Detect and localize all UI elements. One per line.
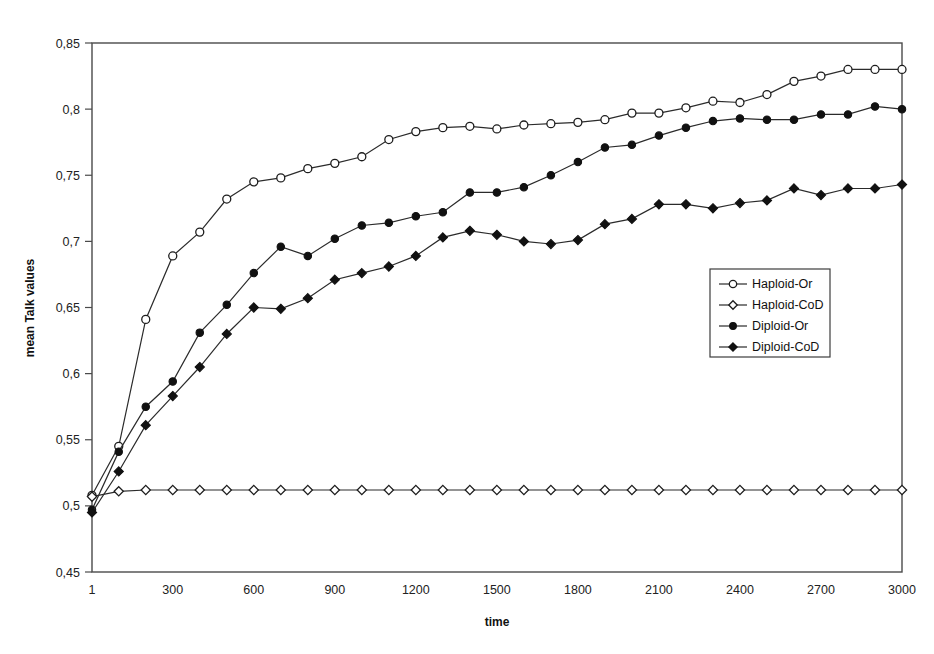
- data-point-marker: [520, 121, 528, 129]
- data-point-marker: [871, 65, 879, 73]
- data-point-marker: [439, 124, 447, 132]
- data-point-marker: [142, 315, 150, 323]
- data-point-marker: [682, 104, 690, 112]
- data-point-marker: [574, 118, 582, 126]
- data-point-marker: [790, 116, 797, 123]
- data-point-marker: [844, 111, 851, 118]
- data-point-marker: [466, 122, 474, 130]
- legend-label: Diploid-Or: [752, 319, 808, 333]
- x-tick-label: 3000: [888, 583, 916, 597]
- data-point-marker: [655, 109, 663, 117]
- chart-legend[interactable]: Haploid-OrHaploid-CoDDiploid-OrDiploid-C…: [710, 269, 830, 357]
- data-point-marker: [628, 109, 636, 117]
- data-point-marker: [493, 125, 501, 133]
- data-point-marker: [142, 403, 149, 410]
- y-tick-label: 0,7: [63, 235, 80, 249]
- data-point-marker: [601, 116, 609, 124]
- data-point-marker: [304, 252, 311, 259]
- data-point-marker: [331, 235, 338, 242]
- data-point-marker: [898, 105, 905, 112]
- data-point-marker: [358, 153, 366, 161]
- y-tick-label: 0,45: [56, 566, 80, 580]
- data-point-marker: [196, 228, 204, 236]
- data-point-marker: [277, 243, 284, 250]
- y-tick-label: 0,5: [63, 499, 80, 513]
- x-tick-label: 900: [324, 583, 345, 597]
- data-point-marker: [466, 189, 473, 196]
- data-point-marker: [601, 144, 608, 151]
- data-point-marker: [277, 174, 285, 182]
- data-point-marker: [412, 213, 419, 220]
- data-point-marker: [682, 124, 689, 131]
- chart-figure: 0,450,50,550,60,650,70,750,80,85 1300600…: [0, 0, 934, 654]
- data-point-marker: [331, 159, 339, 167]
- data-point-marker: [730, 323, 737, 330]
- data-point-marker: [250, 178, 258, 186]
- y-axis-title: mean Talk values: [23, 258, 37, 357]
- data-point-marker: [304, 165, 312, 173]
- data-point-marker: [547, 172, 554, 179]
- x-tick-label: 2700: [807, 583, 835, 597]
- data-point-marker: [736, 99, 744, 107]
- data-point-marker: [439, 209, 446, 216]
- data-point-marker: [196, 329, 203, 336]
- legend-label: Haploid-CoD: [752, 298, 824, 312]
- data-point-marker: [628, 141, 635, 148]
- x-axis-title: time: [485, 615, 510, 629]
- chart-canvas: 0,450,50,550,60,650,70,750,80,85 1300600…: [0, 0, 934, 654]
- data-point-marker: [655, 132, 662, 139]
- y-tick-label: 0,65: [56, 301, 80, 315]
- data-point-marker: [817, 72, 825, 80]
- x-tick-label: 2100: [645, 583, 673, 597]
- x-tick-label: 1500: [483, 583, 511, 597]
- x-tick-label: 1200: [402, 583, 430, 597]
- data-point-marker: [385, 136, 393, 144]
- data-point-marker: [493, 189, 500, 196]
- data-point-marker: [709, 97, 717, 105]
- data-point-marker: [223, 301, 230, 308]
- y-tick-label: 0,85: [56, 37, 80, 51]
- data-point-marker: [574, 158, 581, 165]
- x-tick-label: 600: [243, 583, 264, 597]
- data-point-marker: [790, 77, 798, 85]
- data-point-marker: [115, 448, 122, 455]
- x-tick-label: 2400: [726, 583, 754, 597]
- x-tick-label: 1: [89, 583, 96, 597]
- data-point-marker: [844, 65, 852, 73]
- data-point-marker: [250, 269, 257, 276]
- y-tick-label: 0,8: [63, 103, 80, 117]
- data-point-marker: [709, 117, 716, 124]
- data-point-marker: [520, 183, 527, 190]
- data-point-marker: [169, 252, 177, 260]
- data-point-marker: [763, 91, 771, 99]
- data-point-marker: [358, 222, 365, 229]
- legend-label: Haploid-Or: [752, 277, 812, 291]
- data-point-marker: [763, 116, 770, 123]
- data-point-marker: [169, 378, 176, 385]
- data-point-marker: [547, 120, 555, 128]
- data-point-marker: [729, 280, 736, 287]
- data-point-marker: [871, 103, 878, 110]
- data-point-marker: [385, 219, 392, 226]
- x-tick-label: 1800: [564, 583, 592, 597]
- y-tick-label: 0,6: [63, 367, 80, 381]
- data-point-marker: [817, 111, 824, 118]
- x-tick-label: 300: [162, 583, 183, 597]
- data-point-marker: [412, 128, 420, 136]
- y-tick-label: 0,75: [56, 169, 80, 183]
- legend-label: Diploid-CoD: [752, 340, 819, 354]
- data-point-marker: [736, 115, 743, 122]
- y-tick-label: 0,55: [56, 433, 80, 447]
- data-point-marker: [898, 65, 906, 73]
- data-point-marker: [223, 195, 231, 203]
